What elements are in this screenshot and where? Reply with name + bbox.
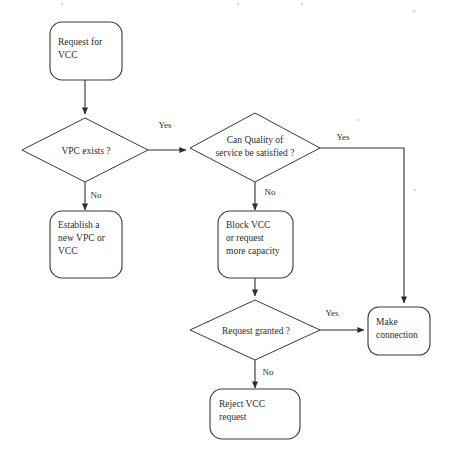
node-establish-new-vpc-or-vcc[interactable]: Establish a new VPC or VCC	[50, 211, 122, 278]
node-label-line: new VPC or	[58, 233, 106, 243]
node-label-line: VPC exists ?	[61, 146, 110, 156]
edge-label-yes-qos: Yes	[336, 132, 350, 142]
node-block-vcc-or-request-more-capacity[interactable]: Block VCC or request more capacity	[218, 211, 293, 278]
edge-label-no-request-granted: No	[263, 367, 274, 377]
scan-speck	[414, 189, 416, 191]
node-label-line: connection	[376, 330, 418, 340]
node-label-line: request	[219, 412, 247, 422]
node-label-line: more capacity	[226, 246, 280, 256]
scan-speck	[412, 9, 415, 12]
scan-speck	[237, 3, 240, 6]
node-label-line: Block VCC	[226, 220, 270, 230]
node-request-for-vcc[interactable]: Request for VCC	[50, 22, 122, 80]
node-label-line: VCC	[58, 50, 78, 60]
node-label-line: VCC	[58, 246, 78, 256]
scan-speck	[301, 3, 303, 5]
node-make-connection[interactable]: Make connection	[368, 307, 430, 355]
node-label-line: Make	[376, 317, 398, 327]
edge-label-yes-vpc-exists: Yes	[158, 120, 172, 130]
node-request-granted[interactable]: Request granted ?	[190, 300, 320, 360]
node-vpc-exists[interactable]: VPC exists ?	[22, 118, 148, 182]
scan-speck	[61, 3, 64, 6]
node-label-line: Reject VCC	[219, 399, 265, 409]
node-label-line: Request for	[58, 37, 103, 47]
node-can-quality-of-service-be-satisfied[interactable]: Can Quality of service be satisfied ?	[190, 113, 320, 182]
node-reject-vcc-request[interactable]: Reject VCC request	[210, 389, 300, 439]
edge-label-no-qos: No	[265, 187, 276, 197]
node-label-line: service be satisfied ?	[216, 148, 295, 158]
edge-label-yes-request-granted: Yes	[325, 308, 339, 318]
node-label-line: Request granted ?	[222, 326, 290, 336]
flowchart-canvas: Request for VCC VPC exists ? Can Quality…	[0, 0, 452, 453]
edge-qos-yes	[320, 148, 404, 303]
edge-label-no-vpc-exists: No	[91, 190, 102, 200]
flowchart-svg: Request for VCC VPC exists ? Can Quality…	[0, 0, 452, 453]
node-label-line: Can Quality of	[227, 135, 284, 145]
node-label-line: Establish a	[58, 220, 100, 230]
scan-speck	[357, 119, 359, 121]
node-label-line: or request	[226, 233, 264, 243]
